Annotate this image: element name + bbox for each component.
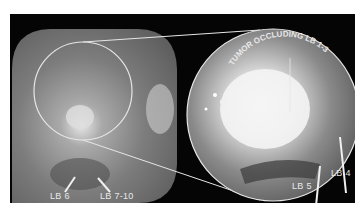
endoscopy-figure: TUMOR OCCLUDING LB 1-3 bbox=[10, 14, 355, 203]
lb5-label: LB 5 bbox=[292, 181, 312, 191]
lb4-label: LB 4 bbox=[331, 168, 351, 178]
lb7-10-label: LB 7-10 bbox=[100, 191, 134, 201]
overview-image bbox=[12, 29, 177, 203]
figure-caption bbox=[10, 207, 355, 217]
magnified-image bbox=[180, 24, 355, 203]
lb6-label: LB 6 bbox=[50, 191, 70, 201]
figure-panel: TUMOR OCCLUDING LB 1-3 LB 6 LB 7-10 LB 5… bbox=[10, 14, 355, 203]
